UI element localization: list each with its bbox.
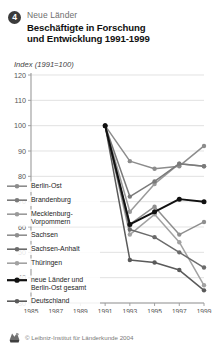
page-title: Beschäftigte in Forschung und Entwicklun…	[27, 22, 204, 45]
chart-series	[103, 123, 207, 227]
legend-item-label: neue Länder und	[31, 276, 83, 283]
legend-item[interactable]: Sachsen	[4, 231, 100, 242]
series-point	[202, 288, 206, 292]
legend-item[interactable]: Thüringen	[4, 259, 100, 270]
series-point	[177, 197, 182, 202]
series-point	[128, 258, 132, 262]
legend-swatch-marker	[14, 278, 19, 283]
legend-swatch-marker	[15, 184, 20, 189]
figure-header: 4 Neue Länder Beschäftigte in Forschung …	[0, 10, 212, 45]
x-tick-label: 1991	[98, 308, 113, 313]
series-point	[152, 235, 156, 239]
series-point	[127, 222, 132, 227]
series-point	[128, 210, 132, 214]
series-point	[152, 179, 156, 183]
series-point	[152, 205, 156, 209]
line-chart: 3040506070809010011012019851987198919911…	[0, 68, 212, 313]
leibniz-logo-icon	[8, 331, 21, 344]
y-tick-label: 110	[15, 96, 26, 105]
legend-item[interactable]: neue Länder undBerlin-Ost gesamt	[4, 276, 100, 293]
series-point	[177, 250, 181, 254]
series-point	[202, 199, 207, 204]
legend-swatch-marker	[15, 261, 20, 266]
series-point	[152, 167, 156, 171]
series-point	[202, 164, 206, 168]
series-point	[177, 232, 181, 236]
legend-swatch-marker	[15, 233, 20, 238]
x-tick-label: 1987	[48, 308, 63, 313]
chart-canvas: 3040506070809010011012019851987198919911…	[0, 68, 212, 313]
legend-item-label: Deutschland	[31, 297, 69, 304]
series-point	[177, 268, 181, 272]
page-title-line2: und Entwicklung 1991-1999	[27, 33, 150, 44]
legend-item[interactable]: Brandenburg	[4, 196, 100, 207]
series-point	[128, 194, 132, 198]
legend-item[interactable]: Mecklenburg-Vorpommern	[4, 210, 100, 227]
legend-item-label: Sachsen-Anhalt	[31, 245, 80, 252]
legend-item-label: Thüringen	[31, 259, 62, 267]
x-tick-label: 1985	[24, 308, 39, 313]
series-point	[103, 123, 108, 128]
figure-kicker: Neue Länder	[27, 10, 204, 21]
x-tick-label: 1989	[73, 308, 88, 313]
series-line	[105, 126, 204, 169]
chart-legend: Berlin-OstBrandenburgMecklenburg-Vorpomm…	[4, 182, 100, 308]
series-point	[177, 161, 181, 165]
series-point	[202, 265, 206, 269]
legend-item-label-line2: Vorpommern	[31, 218, 71, 226]
legend-swatch-marker	[15, 212, 20, 217]
legend-item[interactable]: Berlin-Ost	[4, 182, 100, 193]
legend-item-label: Sachsen	[31, 231, 58, 238]
legend-item-label: Berlin-Ost	[31, 182, 62, 189]
x-tick-label: 1997	[172, 308, 187, 313]
series-point	[128, 159, 132, 163]
series-point	[152, 209, 157, 214]
legend-item[interactable]: Deutschland	[4, 297, 100, 308]
x-tick-label: 1995	[147, 308, 162, 313]
legend-item[interactable]: Sachsen-Anhalt	[4, 245, 100, 256]
figure-footer: © Leibniz-Institut für Länderkunde 2004	[8, 331, 133, 344]
series-point	[128, 232, 132, 236]
x-tick-label: 1993	[123, 308, 138, 313]
legend-item-label: Mecklenburg-	[31, 210, 73, 218]
series-point	[128, 227, 132, 231]
legend-item-label-line2: Berlin-Ost gesamt	[31, 284, 86, 292]
series-point	[202, 144, 206, 148]
legend-swatch-marker	[15, 299, 20, 304]
series-point	[202, 220, 206, 224]
legend-item-label: Brandenburg	[31, 196, 71, 204]
series-point	[177, 240, 181, 244]
series-point	[202, 283, 206, 287]
y-tick-label: 90	[18, 147, 26, 156]
series-point	[152, 260, 156, 264]
page-title-line1: Beschäftigte in Forschung	[27, 22, 146, 33]
figure-number-badge: 4	[8, 11, 21, 24]
y-tick-label: 120	[14, 71, 26, 80]
figure-root: 4 Neue Länder Beschäftigte in Forschung …	[0, 0, 212, 363]
x-tick-label: 1999	[197, 308, 212, 313]
y-tick-label: 80	[18, 172, 26, 181]
legend-swatch-marker	[15, 247, 20, 252]
y-tick-label: 100	[14, 121, 26, 130]
copyright-text: © Leibniz-Institut für Länderkunde 2004	[25, 334, 133, 341]
legend-swatch-marker	[15, 198, 20, 203]
